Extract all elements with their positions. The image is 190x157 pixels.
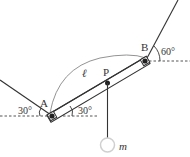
rod [47, 57, 150, 122]
label-p: P [103, 66, 109, 78]
label-length: ℓ [82, 67, 87, 79]
label-angle-bar: 30° [78, 105, 92, 116]
length-arc [50, 55, 146, 113]
angle-arc-left-string [39, 108, 41, 116]
label-angle-left: 30° [18, 105, 32, 116]
label-mass: m [119, 140, 127, 152]
mass [101, 138, 115, 152]
label-angle-right: 60° [161, 46, 175, 57]
angle-arc-right-string [154, 46, 160, 61]
label-a: A [40, 97, 48, 109]
statics-diagram: A B P ℓ 30° 30° 60° m [0, 0, 190, 157]
label-b: B [141, 41, 148, 53]
